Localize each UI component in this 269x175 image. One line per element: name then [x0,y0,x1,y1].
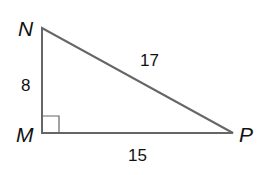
side-label-np: 17 [140,51,159,70]
right-angle-marker [42,116,59,133]
vertex-label-p: P [239,123,253,146]
side-label-mp: 15 [128,146,147,165]
vertex-label-n: N [18,17,34,40]
side-label-nm: 8 [21,76,30,95]
vertex-label-m: M [16,123,34,146]
triangle-nmp [42,28,233,133]
triangle-diagram: N M P 8 17 15 [0,0,269,175]
